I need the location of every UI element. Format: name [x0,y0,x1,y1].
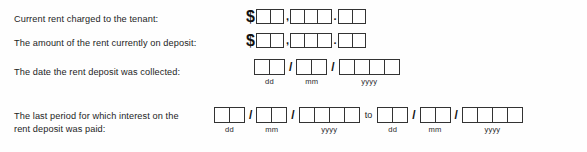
to-year[interactable]: yyyy [462,107,523,134]
day-boxes[interactable] [214,107,245,123]
year-sub-label: yyyy [484,125,500,134]
dollar-sign-icon: $ [246,9,255,24]
char-box[interactable] [369,59,385,75]
to-day[interactable]: dd [377,107,408,134]
day-sub-label: dd [265,77,274,86]
date-collected-day[interactable]: dd [254,59,285,86]
char-box[interactable] [270,33,285,48]
char-box[interactable] [462,107,478,123]
char-box[interactable] [271,107,287,123]
char-box[interactable] [304,33,319,48]
char-box[interactable] [296,59,312,75]
date-collected-label: The date the rent deposit was collected: [14,59,254,79]
day-sub-label: dd [225,125,234,134]
form-sheet: Current rent charged to the tenant: $ , … [0,0,587,152]
char-box[interactable] [338,33,353,48]
char-box[interactable] [352,9,367,24]
month-sub-label: mm [429,125,442,134]
year-boxes[interactable] [299,107,360,123]
date-separator: / [287,107,298,123]
char-box[interactable] [256,107,272,123]
form-row-interest-period: The last period for which interest on th… [14,107,579,135]
month-boxes[interactable] [256,107,287,123]
char-box[interactable] [329,107,345,123]
char-box[interactable] [229,107,245,123]
date-separator: / [451,107,462,123]
day-boxes[interactable] [377,107,408,123]
year-boxes[interactable] [462,107,523,123]
from-day[interactable]: dd [214,107,245,134]
char-box[interactable] [354,59,370,75]
date-collected-field[interactable]: dd / mm / yyyy [254,59,400,86]
date-collected-year[interactable]: yyyy [339,59,400,86]
month-sub-label: mm [305,77,318,86]
rent-deposit-cents-boxes[interactable] [338,33,366,48]
to-month[interactable]: mm [420,107,451,134]
date-separator: / [245,107,256,123]
month-sub-label: mm [265,125,278,134]
char-box[interactable] [435,107,451,123]
dollar-sign-icon: $ [246,33,255,48]
date-collected-month[interactable]: mm [296,59,327,86]
form-row-rent-charged: Current rent charged to the tenant: $ , … [14,9,574,26]
char-box[interactable] [290,9,305,24]
char-box[interactable] [352,33,367,48]
year-sub-label: yyyy [321,125,337,134]
char-box[interactable] [392,107,408,123]
year-boxes[interactable] [339,59,400,75]
char-box[interactable] [338,9,353,24]
interest-period-from-date[interactable]: dd / mm / [214,107,360,134]
form-row-date-collected: The date the rent deposit was collected:… [14,59,574,86]
char-box[interactable] [492,107,508,123]
rent-charged-amount-field[interactable]: $ , . [246,9,366,24]
char-box[interactable] [214,107,230,123]
rent-deposit-thousands-boxes[interactable] [256,33,284,48]
char-box[interactable] [384,59,400,75]
rent-deposit-hundreds-boxes[interactable] [290,33,332,48]
char-box[interactable] [256,33,271,48]
date-separator: / [408,107,419,123]
rent-charged-label: Current rent charged to the tenant: [14,9,246,26]
rent-charged-hundreds-boxes[interactable] [290,9,332,24]
char-box[interactable] [377,107,393,123]
date-separator: / [327,59,338,75]
month-boxes[interactable] [296,59,327,75]
rent-charged-cents-boxes[interactable] [338,9,366,24]
date-separator: / [285,59,296,75]
month-boxes[interactable] [420,107,451,123]
rent-charged-thousands-boxes[interactable] [256,9,284,24]
char-box[interactable] [507,107,523,123]
char-box[interactable] [254,59,270,75]
interest-period-to-date[interactable]: dd / mm / [377,107,523,134]
year-sub-label: yyyy [361,77,377,86]
char-box[interactable] [420,107,436,123]
char-box[interactable] [314,107,330,123]
char-box[interactable] [299,107,315,123]
form-row-rent-deposit: The amount of the rent currently on depo… [14,33,574,50]
from-month[interactable]: mm [256,107,287,134]
interest-period-label: The last period for which interest on th… [14,107,214,135]
char-box[interactable] [304,9,319,24]
char-box[interactable] [317,9,332,24]
day-sub-label: dd [388,125,397,134]
from-year[interactable]: yyyy [299,107,360,134]
char-box[interactable] [269,59,285,75]
char-box[interactable] [256,9,271,24]
interest-period-range-field[interactable]: dd / mm / [214,107,523,134]
char-box[interactable] [311,59,327,75]
day-boxes[interactable] [254,59,285,75]
char-box[interactable] [344,107,360,123]
char-box[interactable] [270,9,285,24]
range-separator: to [360,107,378,123]
char-box[interactable] [477,107,493,123]
char-box[interactable] [339,59,355,75]
rent-deposit-amount-field[interactable]: $ , . [246,33,366,48]
char-box[interactable] [290,33,305,48]
char-box[interactable] [317,33,332,48]
rent-deposit-label: The amount of the rent currently on depo… [14,33,246,50]
